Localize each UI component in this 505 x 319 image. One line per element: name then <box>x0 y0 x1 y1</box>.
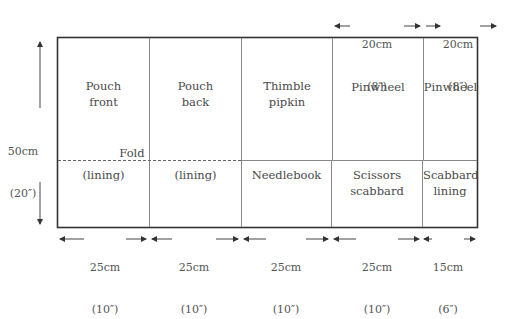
piece-needlebook: Needlebook <box>242 167 331 183</box>
dim-cm: 25cm <box>352 261 402 275</box>
dim-in: (20″) <box>0 187 46 201</box>
dim-cm: 20cm <box>350 38 404 52</box>
label: (lining) <box>150 167 241 183</box>
top-dimension-2: 20cm (8″) <box>431 10 485 108</box>
label: Pouch <box>150 78 241 94</box>
dim-cm: 20cm <box>431 38 485 52</box>
top-dimension-1: 20cm (8″) <box>350 10 404 108</box>
piece-pouch-front: Pouch front <box>58 78 149 110</box>
dim-in: (8″) <box>350 80 404 94</box>
dim-cm: 25cm <box>261 261 311 275</box>
bottom-dimension-2: 25cm (10″) <box>169 233 219 319</box>
bottom-dimension-5: 15cm (6″) <box>430 233 466 319</box>
label: lining <box>423 183 477 199</box>
bottom-dimension-1: 25cm (10″) <box>80 233 130 319</box>
piece-pouch-back: Pouch back <box>150 78 241 110</box>
label: Thimble <box>242 78 332 94</box>
dim-in: (6″) <box>430 303 466 317</box>
dim-in: (10″) <box>352 303 402 317</box>
piece-scabbard-lining: Scabbard lining <box>423 167 477 199</box>
dim-cm: 25cm <box>169 261 219 275</box>
label: pipkin <box>242 94 332 110</box>
dim-cm: 25cm <box>80 261 130 275</box>
piece-scissors-scabbard: Scissors scabbard <box>332 167 422 199</box>
dim-in: (10″) <box>261 303 311 317</box>
fabric-outline <box>58 38 478 228</box>
dim-cm: 50cm <box>0 145 46 159</box>
label: (lining) <box>58 167 149 183</box>
dim-in: (10″) <box>80 303 130 317</box>
bottom-dimension-3: 25cm (10″) <box>261 233 311 319</box>
height-dimension: 50cm (20″) <box>0 117 46 215</box>
label: Scissors <box>332 167 422 183</box>
piece-thimble-pipkin: Thimble pipkin <box>242 78 332 110</box>
dim-in: (10″) <box>169 303 219 317</box>
label: Scabbard <box>423 167 477 183</box>
bottom-dimension-4: 25cm (10″) <box>352 233 402 319</box>
label: Pouch <box>58 78 149 94</box>
label: Needlebook <box>242 167 331 183</box>
piece-lining-1: (lining) <box>58 167 149 183</box>
label: scabbard <box>332 183 422 199</box>
dim-in: (8″) <box>431 80 485 94</box>
label: back <box>150 94 241 110</box>
fold-label: Fold <box>112 145 152 161</box>
piece-lining-2: (lining) <box>150 167 241 183</box>
label: front <box>58 94 149 110</box>
dim-cm: 15cm <box>430 261 466 275</box>
